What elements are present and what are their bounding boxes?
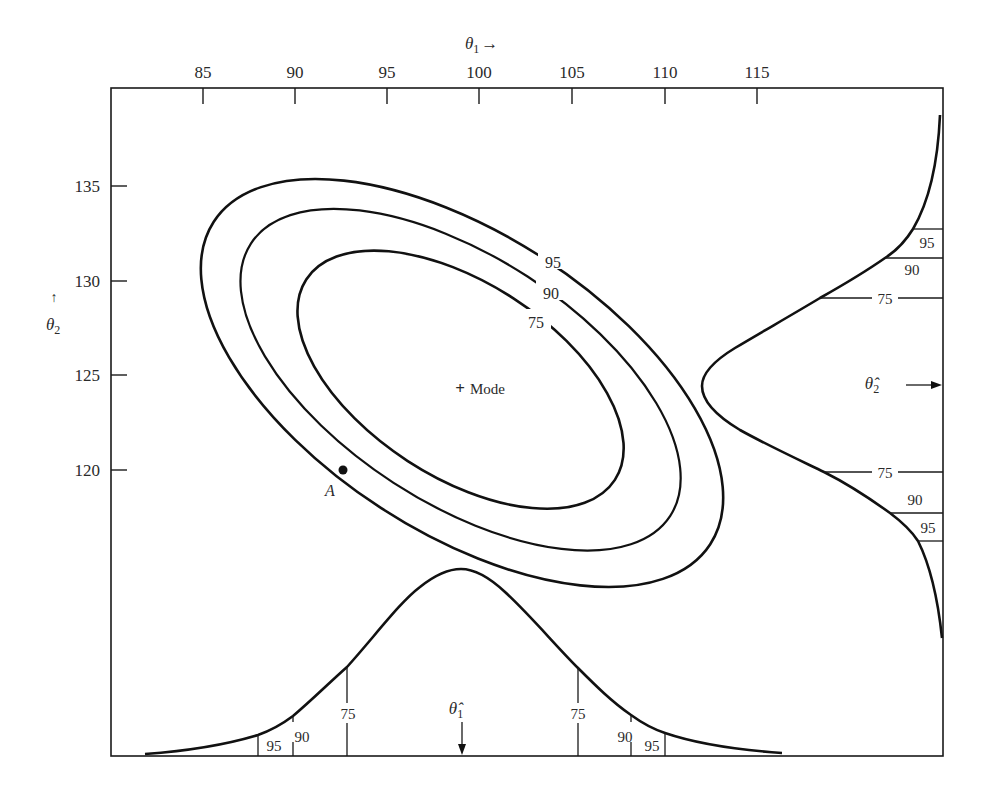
hpd-label: 90 xyxy=(908,492,923,508)
hpd-label: 75 xyxy=(878,291,893,307)
hpd-label: 95 xyxy=(920,235,935,251)
hpd-label: 95 xyxy=(921,520,936,536)
hpd-contour-chart: 85 90 95 100 105 110 115 θ1→ 135 130 125… xyxy=(0,0,991,793)
arrow-down-icon xyxy=(458,744,466,755)
hpd-label: 90 xyxy=(618,729,633,745)
theta2-hat-label: θ̂2 xyxy=(865,374,880,396)
x-tick-label: 90 xyxy=(287,63,304,82)
arrow-right-icon xyxy=(931,381,942,389)
x-tick-label: 95 xyxy=(379,63,396,82)
y-tick-label: 120 xyxy=(75,461,101,480)
y-tick-label: 135 xyxy=(75,177,101,196)
hpd-label: 75 xyxy=(571,706,586,722)
theta1-hat-label: θ̂1 xyxy=(449,699,464,721)
hpd-label: 75 xyxy=(341,706,356,722)
contour-labels: 95 90 75 xyxy=(521,249,568,331)
y-axis-arrow: ↑ xyxy=(51,290,58,305)
x-tick-label: 110 xyxy=(653,63,678,82)
x-tick-label: 105 xyxy=(559,63,585,82)
contour-label-90: 90 xyxy=(543,285,559,302)
x-tick-label: 115 xyxy=(745,63,770,82)
hpd-label: 95 xyxy=(645,738,660,754)
x-tick-label: 100 xyxy=(466,63,492,82)
x-tick-label: 85 xyxy=(195,63,212,82)
x-axis-title: θ1→ xyxy=(465,34,498,56)
y-axis-left: 135 130 125 120 ↑ θ2 xyxy=(46,177,127,480)
marginal-theta2-curve xyxy=(702,115,942,638)
marginal-theta2: 95 90 75 75 90 95 θ̂2 xyxy=(702,115,943,638)
marginal-theta1: 95 90 75 75 90 95 θ̂1 xyxy=(145,569,782,756)
point-a-dot xyxy=(339,466,348,475)
mode-label: Mode xyxy=(470,381,505,397)
mode-marker: + Mode xyxy=(455,379,505,398)
plus-icon: + xyxy=(455,379,465,398)
x-axis-top: 85 90 95 100 105 110 115 θ1→ xyxy=(195,34,770,104)
plot-frame xyxy=(111,88,943,756)
hpd-label: 75 xyxy=(878,465,893,481)
contour-label-95: 95 xyxy=(545,254,561,271)
y-tick-label: 130 xyxy=(75,272,101,291)
y-tick-label: 125 xyxy=(75,366,101,385)
contour-label-75: 75 xyxy=(528,314,544,331)
marginal-theta1-curve xyxy=(145,569,782,754)
hpd-label: 95 xyxy=(267,738,282,754)
point-a-label: A xyxy=(324,482,335,499)
hpd-label: 90 xyxy=(295,729,310,745)
hpd-label: 90 xyxy=(905,262,920,278)
y-axis-title: θ2 xyxy=(46,315,60,337)
